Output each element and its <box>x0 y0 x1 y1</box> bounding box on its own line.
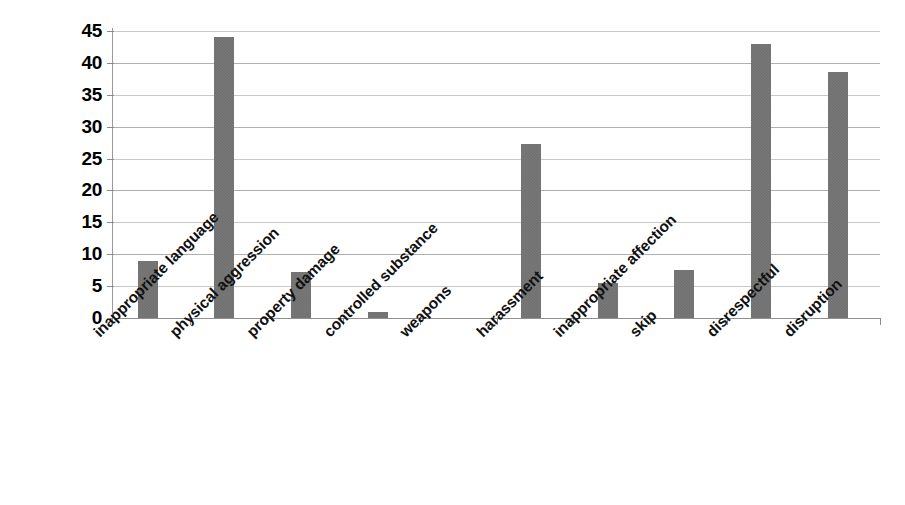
y-axis-tick-mark <box>107 95 114 96</box>
y-axis-tick-mark <box>107 286 114 287</box>
y-axis-tick-label: 25 <box>56 149 102 168</box>
y-axis-tick-labels: 051015202530354045 <box>50 0 102 505</box>
y-axis-tick-mark <box>107 31 114 32</box>
y-axis-tick-mark <box>107 63 114 64</box>
y-axis-tick-mark <box>107 222 114 223</box>
bar-chart: 051015202530354045 inappropriate languag… <box>0 0 905 505</box>
y-axis-tick-mark <box>107 190 114 191</box>
x-axis-tick-mark <box>880 318 881 325</box>
bar <box>368 312 388 318</box>
y-axis-tick-mark <box>107 127 114 128</box>
y-axis-tick-label: 10 <box>56 244 102 263</box>
gridline <box>113 31 880 32</box>
y-axis-tick-mark <box>107 159 114 160</box>
y-axis-tick-label: 20 <box>56 180 102 199</box>
y-axis-tick-label: 40 <box>56 53 102 72</box>
y-axis-tick-mark <box>107 318 114 319</box>
y-axis-tick-label: 15 <box>56 212 102 231</box>
y-axis-tick-label: 30 <box>56 117 102 136</box>
y-axis-tick-label: 45 <box>56 21 102 40</box>
y-axis-tick-label: 5 <box>56 276 102 295</box>
bar <box>674 270 694 318</box>
y-axis-tick-label: 35 <box>56 85 102 104</box>
y-axis-tick-mark <box>107 254 114 255</box>
